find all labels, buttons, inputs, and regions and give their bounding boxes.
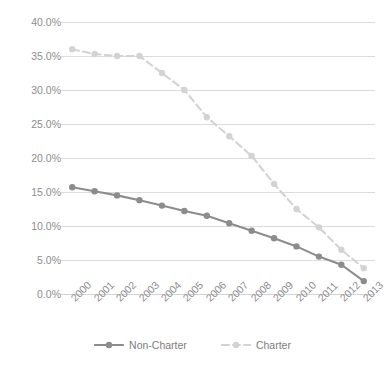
legend-swatch-icon: [94, 340, 124, 350]
data-point: [181, 87, 187, 93]
data-point: [338, 247, 344, 253]
data-point: [293, 243, 299, 249]
data-point: [91, 188, 97, 194]
data-point: [136, 197, 142, 203]
data-point: [136, 53, 142, 59]
data-point: [293, 206, 299, 212]
data-point: [271, 235, 277, 241]
data-point: [114, 192, 120, 198]
data-point: [361, 265, 367, 271]
data-point: [226, 133, 232, 139]
data-point: [226, 220, 232, 226]
data-point: [159, 202, 165, 208]
x-axis: 2000200120022003200420052006200720082009…: [61, 296, 375, 342]
legend-swatch-icon: [221, 340, 251, 350]
data-point: [316, 224, 322, 230]
legend-item-charter[interactable]: Charter: [221, 340, 291, 351]
data-point: [69, 46, 75, 52]
chart-legend: Non-CharterCharter: [0, 340, 385, 351]
data-point: [271, 181, 277, 187]
series-line: [72, 187, 364, 281]
legend-label: Charter: [256, 340, 291, 351]
data-point: [91, 51, 97, 57]
data-point: [204, 114, 210, 120]
data-point: [248, 228, 254, 234]
data-point: [114, 53, 120, 59]
legend-label: Non-Charter: [129, 340, 187, 351]
data-point: [316, 253, 322, 259]
line-chart: 0.0%5.0%10.0%15.0%20.0%25.0%30.0%35.0%40…: [0, 0, 385, 369]
data-point: [248, 153, 254, 159]
data-point: [338, 262, 344, 268]
data-point: [69, 184, 75, 190]
series-non-charter: [69, 184, 367, 284]
series-line: [72, 49, 364, 268]
data-point: [181, 208, 187, 214]
data-point: [204, 213, 210, 219]
series-charter: [69, 46, 367, 271]
data-point: [159, 70, 165, 76]
legend-item-non-charter[interactable]: Non-Charter: [94, 340, 187, 351]
data-point: [361, 278, 367, 284]
